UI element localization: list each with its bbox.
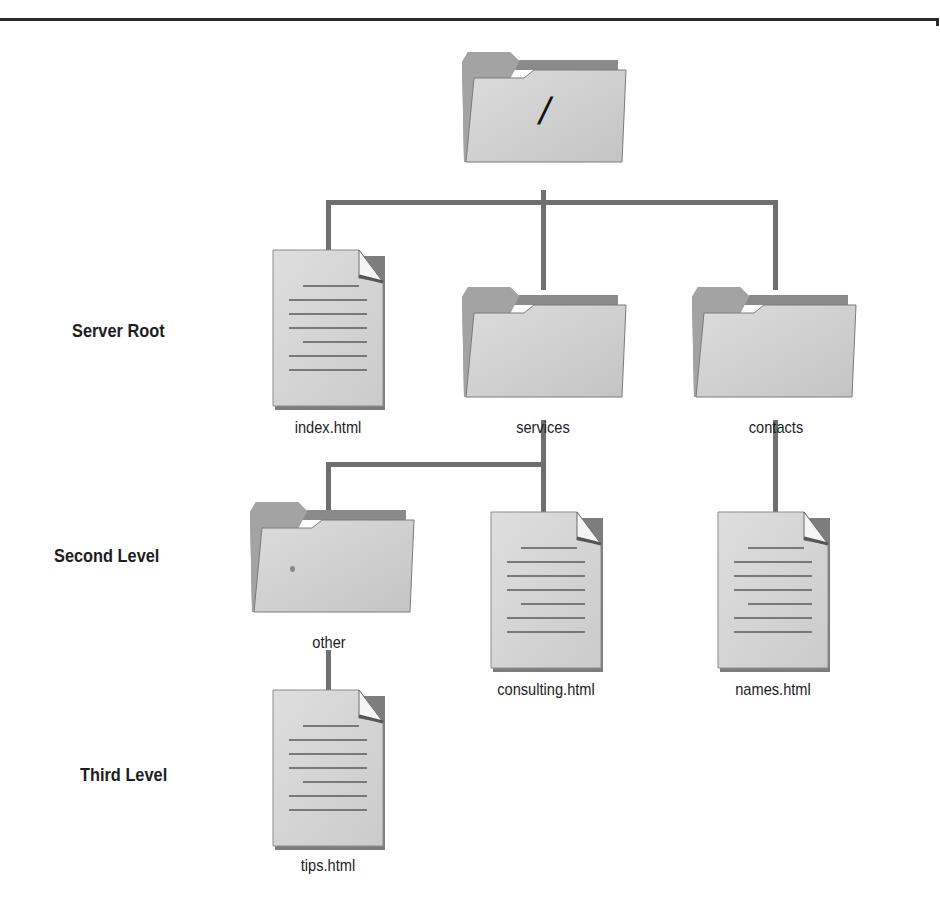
document-icon[interactable] [489,510,605,672]
node-label-tips: tips.html [242,856,414,876]
folder-icon[interactable] [248,500,416,616]
level-label-second-level: Second Level [54,545,159,567]
other-folder-dot [290,566,295,572]
connector-services-bar [326,462,546,467]
document-icon[interactable] [271,688,387,850]
document-icon[interactable] [716,510,832,672]
folder-icon[interactable] [690,285,858,401]
connector-root-stem [541,190,546,290]
node-label-index: index.html [242,418,414,438]
connector-other-down [326,650,331,692]
connector-contacts [773,200,778,290]
connector-index [326,200,331,250]
node-label-consulting: consulting.html [460,680,632,700]
node-label-other: other [243,633,415,653]
node-label-services: services [457,418,629,438]
node-label-names: names.html [687,680,859,700]
document-icon[interactable] [271,248,387,410]
connector-root-bar [326,200,778,205]
top-rule [0,18,938,21]
top-rule-tick [936,18,939,26]
folder-icon[interactable] [460,285,628,401]
level-label-server-root: Server Root [72,320,165,342]
node-label-contacts: contacts [690,418,862,438]
level-label-third-level: Third Level [80,764,167,786]
